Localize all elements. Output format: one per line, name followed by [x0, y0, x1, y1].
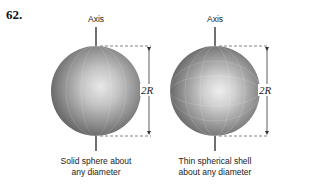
- axis-label-left: Axis: [76, 14, 116, 24]
- dimension-label-right: 2R: [258, 84, 272, 96]
- caption-line: Thin spherical shell: [155, 156, 275, 167]
- caption-shell-sphere: Thin spherical shell about any diameter: [155, 156, 275, 178]
- dimension-label-left: 2R: [140, 84, 154, 96]
- axis-label-right: Axis: [195, 14, 235, 24]
- caption-solid-sphere: Solid sphere about any diameter: [36, 156, 156, 178]
- solid-sphere-figure: [51, 27, 151, 151]
- caption-line: about any diameter: [155, 167, 275, 178]
- shell-sphere-figure: [170, 27, 269, 151]
- shell-sphere: [170, 46, 260, 136]
- solid-sphere: [51, 46, 141, 136]
- caption-line: Solid sphere about: [36, 156, 156, 167]
- caption-line: any diameter: [36, 167, 156, 178]
